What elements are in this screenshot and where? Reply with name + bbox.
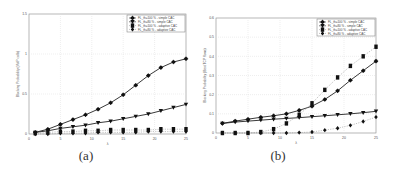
y-tick-label: 0.3 bbox=[209, 74, 214, 78]
x-tick-label: 15 bbox=[121, 137, 125, 141]
legend-entry: FL_th=80 % - adaptive CAC bbox=[138, 28, 176, 32]
y-tick-label: 0.5 bbox=[209, 35, 214, 39]
x-tick-label: 20 bbox=[342, 136, 346, 140]
x-tick-label: 0 bbox=[215, 136, 217, 140]
y-tick-label: 0.1 bbox=[209, 112, 214, 116]
x-tick-label: 10 bbox=[90, 137, 94, 141]
y-tick-label: 0.5 bbox=[22, 92, 27, 96]
chart-b: 051015202500.10.20.30.40.50.6λBlocking P… bbox=[200, 0, 397, 172]
chart-a: 051015202500.511.5λBlocking Probability … bbox=[0, 0, 200, 172]
chart-panel-a: 051015202500.511.5λBlocking Probability … bbox=[0, 0, 200, 172]
y-axis-label: Blocking Probability (VoIP calls) bbox=[16, 51, 20, 97]
x-tick-label: 10 bbox=[278, 136, 282, 140]
legend: FL_th=100 % - simple CACFL_th=80 % - sim… bbox=[127, 15, 185, 32]
x-tick-label: 25 bbox=[184, 137, 188, 141]
caption-b: (b) bbox=[258, 148, 298, 164]
x-tick-label: 15 bbox=[310, 136, 314, 140]
y-tick-label: 0 bbox=[212, 131, 214, 135]
x-axis-label: λ bbox=[295, 141, 297, 145]
legend-entry: FL_th=80 % - adaptive CAC bbox=[328, 32, 366, 36]
x-tick-label: 25 bbox=[374, 136, 378, 140]
y-tick-label: 0.6 bbox=[209, 16, 214, 20]
y-tick-label: 1.5 bbox=[22, 12, 27, 16]
x-tick-label: 0 bbox=[28, 137, 30, 141]
y-tick-label: 1 bbox=[25, 52, 27, 56]
y-tick-label: 0.4 bbox=[209, 55, 214, 59]
chart-panel-b: 051015202500.10.20.30.40.50.6λBlocking P… bbox=[200, 0, 397, 172]
x-tick-label: 5 bbox=[247, 136, 249, 140]
y-tick-label: 0.2 bbox=[209, 93, 214, 97]
legend: FL_th=100 % - simple CACFL_th=80 % - sim… bbox=[317, 19, 375, 36]
x-tick-label: 20 bbox=[153, 137, 157, 141]
x-tick-label: 5 bbox=[59, 137, 61, 141]
x-axis-label: λ bbox=[107, 142, 109, 146]
caption-a: (a) bbox=[66, 148, 106, 164]
y-axis-label: Blocking Probability (Best TCP flows) bbox=[203, 48, 207, 102]
y-tick-label: 0 bbox=[25, 132, 27, 136]
